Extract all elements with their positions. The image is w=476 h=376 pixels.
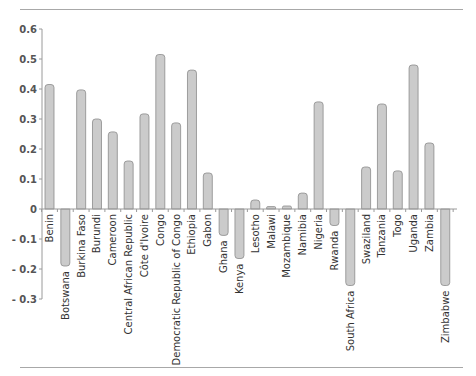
bar-burundi (92, 119, 101, 209)
bar-zimbabwe (441, 209, 450, 286)
bar-south-africa (346, 209, 355, 286)
x-tick-label: Rwanda (329, 231, 340, 271)
x-tick-label: Swaziland (361, 214, 372, 264)
x-tick-label: Lesotho (250, 214, 261, 253)
y-tick-label: 0 (30, 204, 37, 215)
x-tick-label: Cameroon (107, 214, 118, 265)
bar-ethiopia (187, 70, 196, 209)
x-axis: BeninBotswanaBurkina FasoBurundiCameroon… (42, 209, 457, 365)
bar-botswana (61, 209, 70, 266)
bar-democratic-republic-of-congo (172, 123, 181, 209)
y-tick-label: 0.6 (19, 24, 37, 35)
bar-ghana (219, 209, 228, 235)
y-tick-label: - 0.2 (12, 264, 37, 275)
bar-lesotho (251, 200, 260, 209)
x-tick-label: Côte d'Ivoire (139, 214, 150, 277)
bar-burkina-faso (77, 90, 86, 209)
y-tick-label: - 0.1 (12, 234, 37, 245)
x-tick-label: South Africa (345, 291, 356, 352)
bar-rwanda (330, 209, 339, 226)
bar-tanzania (377, 104, 386, 209)
x-tick-label: Tanzania (376, 214, 387, 259)
x-tick-label: Togo (392, 214, 403, 238)
bar-central-african-republic (124, 161, 133, 209)
y-tick-label: 0.3 (19, 114, 37, 125)
x-tick-label: Central African Republic (123, 214, 134, 334)
x-tick-label: Gabon (202, 214, 213, 247)
y-tick-label: - 0.3 (12, 294, 37, 305)
x-tick-label: Burkina Faso (76, 214, 87, 278)
bar-swaziland (362, 167, 371, 209)
x-tick-label: Congo (155, 214, 166, 246)
y-tick-label: 0.4 (19, 84, 37, 95)
bar-namibia (298, 193, 307, 209)
x-tick-label: Zambia (424, 214, 435, 252)
bar-chart: 0.60.50.40.30.20.10- 0.1- 0.2- 0.3 Benin… (0, 0, 476, 376)
y-axis: 0.60.50.40.30.20.10- 0.1- 0.2- 0.3 (12, 24, 42, 305)
x-tick-label: Mozambique (281, 214, 292, 278)
bar-congo (156, 55, 165, 210)
bars (45, 55, 450, 286)
x-tick-label: Kenya (234, 264, 245, 295)
bar-nigeria (314, 102, 323, 209)
bar-uganda (409, 65, 418, 209)
bar-cameroon (108, 132, 117, 209)
bar-kenya (235, 209, 244, 259)
x-tick-label: Benin (44, 214, 55, 242)
bar-benin (45, 85, 54, 210)
bar-zambia (425, 143, 434, 209)
x-tick-label: Burundi (91, 214, 102, 253)
y-tick-label: 0.1 (19, 174, 37, 185)
y-tick-label: 0.2 (19, 144, 37, 155)
bar-gabon (203, 173, 212, 209)
y-tick-label: 0.5 (19, 54, 37, 65)
x-tick-label: Uganda (408, 214, 419, 253)
x-tick-label: Ethiopia (186, 214, 197, 255)
x-tick-label: Nigeria (313, 214, 324, 250)
bar-c-te-d-ivoire (140, 114, 149, 209)
x-tick-label: Namibia (297, 214, 308, 255)
x-tick-label: Democratic Republic of Congo (171, 214, 182, 365)
x-tick-label: Malawi (266, 214, 277, 249)
x-tick-label: Ghana (218, 240, 229, 273)
bar-togo (393, 171, 402, 209)
x-tick-label: Zimbabwe (440, 291, 451, 344)
x-tick-label: Botswana (60, 271, 71, 320)
